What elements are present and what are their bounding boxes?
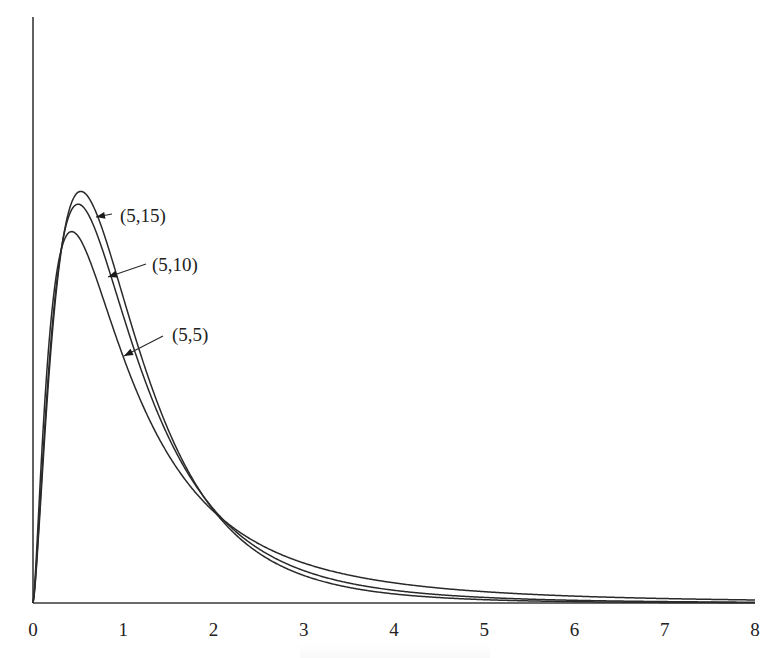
x-tick-label: 2: [209, 619, 219, 640]
x-tick-label: 0: [28, 619, 38, 640]
annotation: (5,15): [96, 205, 166, 227]
annotation: (5,10): [108, 254, 198, 277]
x-tick-label: 7: [660, 619, 670, 640]
arrowhead-icon: [124, 349, 134, 356]
x-tick-label: 3: [299, 619, 309, 640]
f-distribution-chart: 012345678 (5,15)(5,10)(5,5): [0, 0, 782, 658]
x-tick-label: 6: [570, 619, 580, 640]
density-curves: [33, 191, 755, 603]
curve-5-15: [33, 191, 755, 603]
x-tick-label: 4: [389, 619, 399, 640]
curve-5-5: [33, 232, 755, 603]
series-label: (5,10): [152, 254, 198, 276]
x-tick-label: 8: [750, 619, 760, 640]
figure-caption-clipped: [300, 644, 490, 658]
x-tick-label: 5: [480, 619, 490, 640]
series-label: (5,15): [120, 205, 166, 227]
series-label: (5,5): [172, 324, 208, 346]
x-tick-labels: 012345678: [28, 619, 760, 640]
x-tick-label: 1: [119, 619, 129, 640]
